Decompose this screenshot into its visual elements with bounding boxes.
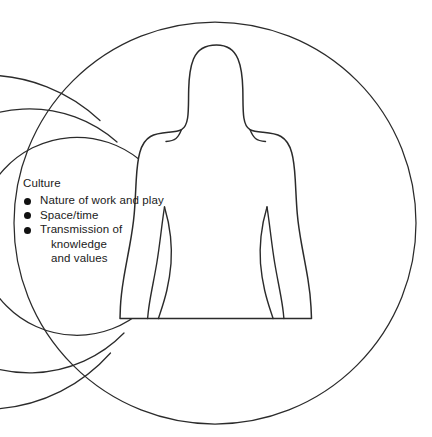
- legend-item-label-line2: knowledge: [40, 237, 183, 252]
- bullet-dot-icon: [24, 212, 31, 219]
- legend-item-label: Space/time: [40, 208, 183, 223]
- bullet-dot-icon: [24, 198, 31, 205]
- legend-item-nature-of-work-and-play: Nature of work and play: [23, 193, 183, 208]
- legend-item-label-line3: and values: [40, 251, 183, 266]
- bullet-dot-icon: [24, 227, 31, 234]
- culture-legend: Culture Nature of work and play Space/ti…: [23, 176, 183, 266]
- legend-item-space-time: Space/time: [23, 208, 183, 223]
- legend-item-label: Transmission of: [40, 222, 183, 237]
- legend-item-transmission-of-knowledge-and-values: Transmission of knowledge and values: [23, 222, 183, 266]
- legend-title: Culture: [23, 176, 183, 191]
- legend-item-list: Nature of work and play Space/time Trans…: [23, 193, 183, 266]
- legend-item-label: Nature of work and play: [40, 193, 183, 208]
- culture-diagram: Culture Nature of work and play Space/ti…: [0, 0, 432, 437]
